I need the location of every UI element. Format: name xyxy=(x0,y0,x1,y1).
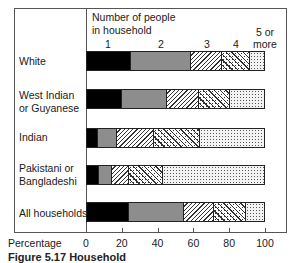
bar-segment-5 xyxy=(200,129,264,147)
bar-segment-2 xyxy=(122,90,166,108)
category-label-line: or Guyanese xyxy=(19,102,79,115)
bar-segment-1 xyxy=(87,203,129,221)
series-label-1: 1 xyxy=(105,38,111,50)
series-label-line: more xyxy=(250,38,280,50)
legend-title: Number of people in household xyxy=(92,11,175,37)
bar-segment-3 xyxy=(112,166,130,184)
bar-segment-1 xyxy=(87,129,98,147)
bar-segment-5 xyxy=(246,203,264,221)
label-divider xyxy=(86,8,87,233)
series-label-5: 5 or more xyxy=(250,26,280,50)
category-label-line: Bangladeshi xyxy=(19,175,77,188)
bar-segment-1 xyxy=(87,166,99,184)
series-label-2: 2 xyxy=(158,38,164,50)
category-label-indian: Indian xyxy=(19,131,48,144)
x-tick xyxy=(158,228,159,233)
bar-segment-2 xyxy=(99,166,111,184)
x-tick-label: 60 xyxy=(188,237,200,249)
category-label-west-indian: West Indian or Guyanese xyxy=(19,89,79,115)
x-tick xyxy=(265,228,266,233)
series-label-line: 5 or xyxy=(250,26,280,38)
category-label-line: Pakistani or xyxy=(19,162,77,175)
legend-title-line: Number of people xyxy=(92,11,175,24)
x-tick xyxy=(122,228,123,233)
x-tick-label: 0 xyxy=(83,237,89,249)
bar-segment-2 xyxy=(98,129,117,147)
bar-all-households xyxy=(86,202,265,222)
bar-segment-4 xyxy=(129,166,163,184)
bar-segment-3 xyxy=(184,203,214,221)
bar-pakistani xyxy=(86,165,265,185)
category-label-all: All households xyxy=(19,207,87,220)
bar-segment-3 xyxy=(191,52,221,70)
x-tick-label: 80 xyxy=(223,237,235,249)
x-tick xyxy=(193,228,194,233)
bar-white xyxy=(86,51,265,71)
x-tick xyxy=(86,228,87,233)
bar-segment-3 xyxy=(167,90,199,108)
category-label-pakistani: Pakistani or Bangladeshi xyxy=(19,162,77,188)
bar-segment-5 xyxy=(250,52,264,70)
x-tick-label: 20 xyxy=(116,237,128,249)
category-label-line: West Indian xyxy=(19,89,79,102)
bar-segment-1 xyxy=(87,90,122,108)
bar-segment-4 xyxy=(154,129,200,147)
bar-segment-5 xyxy=(163,166,264,184)
bar-indian xyxy=(86,128,265,148)
bar-segment-5 xyxy=(230,90,264,108)
legend-title-line: in household xyxy=(92,24,175,37)
x-axis-title: Percentage xyxy=(8,237,62,249)
x-tick-label: 100 xyxy=(256,237,274,249)
x-tick-label: 40 xyxy=(152,237,164,249)
bar-west-indian xyxy=(86,89,265,109)
chart-frame xyxy=(14,8,287,233)
bar-segment-2 xyxy=(129,203,184,221)
series-label-4: 4 xyxy=(233,38,239,50)
bar-segment-1 xyxy=(87,52,131,70)
series-label-3: 3 xyxy=(204,38,210,50)
figure-caption: Figure 5.17 Household xyxy=(8,251,126,263)
bar-segment-4 xyxy=(199,90,231,108)
category-label-white: White xyxy=(19,55,46,68)
bar-segment-3 xyxy=(117,129,154,147)
bar-segment-2 xyxy=(131,52,191,70)
x-tick xyxy=(229,228,230,233)
bar-segment-4 xyxy=(214,203,246,221)
bar-segment-4 xyxy=(222,52,250,70)
